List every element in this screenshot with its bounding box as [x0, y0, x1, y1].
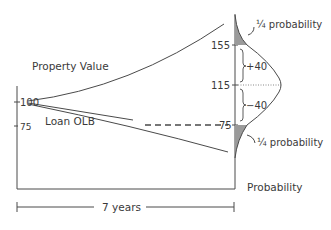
lower-tail-shading: [235, 125, 247, 158]
right-tick-label-155: 155: [211, 40, 230, 51]
lower-tail-arrow-icon: [247, 135, 255, 143]
upper-tail-annotation: ¼ probability: [256, 19, 322, 30]
loan-olb-label: Loan OLB: [45, 115, 95, 127]
right-tick-label-115: 115: [211, 80, 230, 91]
left-tick-label-75: 75: [20, 122, 31, 132]
upper-tail-arrow-icon: [248, 27, 254, 35]
right-tick-label-75: 75: [219, 120, 232, 131]
time-span-label: 7 years: [102, 201, 141, 213]
property-value-lower-curve: [28, 104, 228, 152]
lower-tail-annotation: ¼ probability: [257, 137, 323, 148]
upper-interval-label: +40: [246, 61, 267, 72]
lower-interval-label: −40: [246, 100, 267, 111]
property-value-distribution-diagram: Property Value Loan OLB 100 75 155 115 7…: [0, 0, 331, 230]
property-value-label: Property Value: [32, 60, 109, 72]
probability-axis-label: Probability: [247, 181, 303, 193]
left-tick-label-100: 100: [20, 97, 39, 108]
upper-tail-shading: [235, 15, 247, 45]
